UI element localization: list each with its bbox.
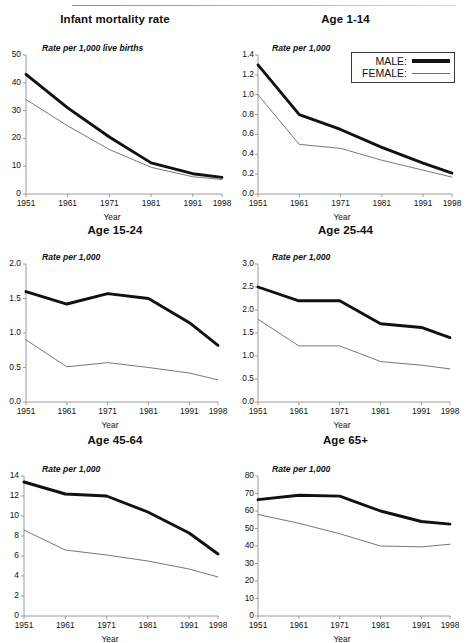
panel-age-15-24: Age 15-24 Rate per 1,000 0.00.51.01.52.0… [0, 220, 230, 430]
y-tick-label: 2.5 [242, 281, 254, 291]
y-tick-label: 0 [249, 610, 254, 620]
y-tick-label: 0.4 [242, 148, 254, 158]
y-tick-label: 0 [16, 188, 21, 198]
axis-lines [258, 264, 450, 402]
x-tick-label: 1991 [173, 620, 205, 630]
plot-svg [230, 430, 460, 641]
x-tick-label: 1998 [434, 620, 466, 630]
x-tick-label: 1961 [283, 198, 315, 208]
y-tick-label: 1.5 [242, 327, 254, 337]
y-tick-label: 10 [10, 510, 19, 520]
y-tick-label: 70 [245, 488, 254, 498]
y-tick-label: 2.0 [9, 258, 21, 268]
axis-lines [24, 476, 218, 616]
series-line-male [26, 292, 218, 346]
y-tick-label: 40 [245, 540, 254, 550]
x-tick-label: 1961 [52, 198, 84, 208]
y-tick-label: 1.0 [242, 89, 254, 99]
y-tick-label: 14 [10, 470, 19, 480]
x-tick-label: 1991 [407, 198, 439, 208]
y-tick-label: 0.8 [242, 109, 254, 119]
x-tick-label: 1991 [173, 406, 205, 416]
y-tick-label: 1.2 [242, 69, 254, 79]
x-tick-label: 1981 [133, 406, 165, 416]
plot-svg [230, 220, 460, 431]
x-tick-label: 1971 [324, 620, 356, 630]
series-line-male [258, 495, 450, 524]
y-tick-label: 1.0 [9, 327, 21, 337]
x-tick-label: 1961 [51, 406, 83, 416]
series-line-male [24, 482, 218, 554]
x-tick-label: 1991 [405, 620, 437, 630]
panel-age-1-14: Age 1-14 Rate per 1,000 MALE: FEMALE: 0.… [230, 9, 461, 220]
x-tick-label: 1998 [434, 406, 466, 416]
y-tick-label: 30 [12, 105, 21, 115]
x-tick-label: 1951 [10, 198, 42, 208]
y-tick-label: 40 [12, 77, 21, 87]
series-line-female [26, 99, 222, 179]
axis-lines [26, 264, 218, 402]
x-axis-title: Year [90, 634, 130, 643]
x-tick-label: 1971 [91, 620, 123, 630]
x-tick-label: 1971 [324, 406, 356, 416]
x-tick-label: 1981 [135, 198, 167, 208]
x-tick-label: 1961 [283, 406, 315, 416]
y-tick-label: 8 [14, 530, 19, 540]
y-tick-label: 0.2 [242, 168, 254, 178]
panel-infant-mortality-rate: Infant mortality rate Rate per 1,000 liv… [0, 9, 230, 220]
x-tick-label: 1951 [8, 620, 40, 630]
plot-svg [0, 430, 230, 641]
panel-age-45-64: Age 45-64 Rate per 1,000 024681012141951… [0, 430, 230, 643]
plot-svg [0, 220, 230, 431]
series-line-female [24, 530, 218, 577]
y-tick-label: 10 [12, 160, 21, 170]
x-tick-label: 1951 [10, 406, 42, 416]
x-tick-label: 1951 [242, 620, 274, 630]
x-axis-title: Year [322, 634, 362, 643]
y-tick-label: 0.0 [242, 188, 254, 198]
plot-svg [230, 9, 460, 220]
x-axis-title: Year [322, 420, 362, 430]
x-tick-label: 1981 [365, 406, 397, 416]
x-tick-label: 1998 [436, 198, 466, 208]
panel-age-25-44: Age 25-44 Rate per 1,000 0.00.51.01.52.0… [230, 220, 461, 430]
y-tick-label: 20 [245, 575, 254, 585]
axis-lines [258, 55, 452, 194]
x-tick-label: 1981 [365, 620, 397, 630]
x-tick-label: 1971 [92, 406, 124, 416]
y-tick-label: 0.6 [242, 128, 254, 138]
y-tick-label: 0.5 [9, 362, 21, 372]
panel-age-65-plus: Age 65+ Rate per 1,000 01020304050607080… [230, 430, 461, 643]
x-tick-label: 1971 [93, 198, 125, 208]
y-tick-label: 80 [245, 470, 254, 480]
y-tick-label: 2 [14, 590, 19, 600]
y-tick-label: 30 [245, 558, 254, 568]
y-tick-label: 6 [14, 550, 19, 560]
y-tick-label: 1.5 [9, 293, 21, 303]
series-line-female [258, 515, 450, 547]
y-tick-label: 0.5 [242, 373, 254, 383]
x-tick-label: 1981 [366, 198, 398, 208]
y-tick-label: 3.0 [242, 258, 254, 268]
small-multiples-grid: Infant mortality rate Rate per 1,000 liv… [0, 9, 461, 643]
x-tick-label: 1981 [132, 620, 164, 630]
series-line-male [258, 65, 452, 173]
y-tick-label: 50 [245, 523, 254, 533]
y-tick-label: 60 [245, 505, 254, 515]
x-tick-label: 1951 [242, 198, 274, 208]
x-axis-title: Year [90, 420, 130, 430]
y-tick-label: 20 [12, 132, 21, 142]
x-tick-label: 1961 [283, 620, 315, 630]
y-tick-label: 1.0 [242, 350, 254, 360]
x-tick-label: 1991 [177, 198, 209, 208]
page-top-rule [72, 5, 456, 6]
y-tick-label: 10 [245, 593, 254, 603]
y-tick-label: 4 [14, 570, 19, 580]
x-tick-label: 1951 [242, 406, 274, 416]
x-tick-label: 1961 [49, 620, 81, 630]
y-tick-label: 0.0 [242, 396, 254, 406]
y-tick-label: 0 [14, 610, 19, 620]
x-tick-label: 1971 [325, 198, 357, 208]
plot-svg [0, 9, 230, 220]
x-tick-label: 1991 [405, 406, 437, 416]
